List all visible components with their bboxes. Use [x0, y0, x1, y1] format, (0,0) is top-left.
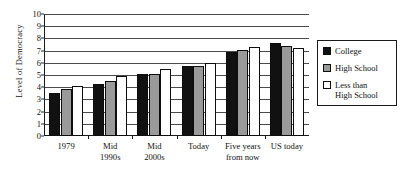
bar-group-bars — [44, 14, 88, 136]
x-tick-mark — [265, 135, 266, 139]
x-tick-mark — [221, 135, 222, 139]
bar-groups: 1979Mid1990sMid2000sTodayFive yearsfrom … — [44, 14, 309, 136]
chart-legend: CollegeHigh SchoolLess than High School — [317, 40, 397, 106]
x-tick-mark — [132, 135, 133, 139]
legend-item[interactable]: Less than High School — [323, 80, 392, 100]
legend-item[interactable]: High School — [323, 63, 392, 73]
bar[interactable] — [160, 69, 171, 136]
bar[interactable] — [137, 74, 148, 136]
bar-group: Today — [177, 14, 221, 136]
y-axis-title: Level of Democracy — [14, 6, 24, 116]
x-label-line-1: Mid — [147, 141, 161, 151]
x-tick-mark — [177, 135, 178, 139]
bar-group-bars — [88, 14, 132, 136]
x-label-line-1: Mid — [103, 141, 117, 151]
bar-chart-figure: Level of Democracy 012345678910 1979Mid1… — [0, 0, 405, 181]
legend-item-label: Less than High School — [335, 80, 378, 100]
bar-group: Mid1990s — [88, 14, 132, 136]
bar[interactable] — [193, 66, 204, 136]
bar-group: US today — [265, 14, 309, 136]
bar[interactable] — [149, 74, 160, 136]
bar[interactable] — [226, 52, 237, 136]
bar-group-bars — [265, 14, 309, 136]
x-label-line-1: US today — [271, 141, 303, 151]
bar[interactable] — [237, 50, 248, 136]
bar-group-bars — [177, 14, 221, 136]
bar[interactable] — [116, 76, 127, 136]
bar[interactable] — [61, 89, 72, 136]
black-square-swatch — [323, 47, 331, 55]
white-square-swatch — [323, 81, 331, 89]
x-label-line-1: 1979 — [58, 141, 75, 151]
gray-square-swatch — [323, 64, 331, 72]
bar[interactable] — [72, 86, 83, 136]
bar[interactable] — [49, 93, 60, 136]
bar-group: 1979 — [44, 14, 88, 136]
bar[interactable] — [249, 47, 260, 136]
bar-group: Five yearsfrom now — [221, 14, 265, 136]
y-tick-label: 10 — [33, 10, 42, 19]
x-label-line-2: from now — [210, 152, 276, 163]
x-label-line-2: 2000s — [121, 152, 187, 163]
bar-group-bars — [132, 14, 176, 136]
legend-item-label: College — [335, 46, 361, 56]
x-tick-mark — [88, 135, 89, 139]
bar-group-bars — [221, 14, 265, 136]
x-label-line-1: Today — [188, 141, 209, 151]
bar[interactable] — [93, 84, 104, 136]
bar[interactable] — [205, 63, 216, 136]
legend-item-label: High School — [335, 63, 378, 73]
bar[interactable] — [270, 43, 281, 136]
bar[interactable] — [281, 46, 292, 136]
bar[interactable] — [105, 81, 116, 136]
plot-area: 012345678910 1979Mid1990sMid2000sTodayFi… — [44, 14, 309, 136]
bar[interactable] — [293, 48, 304, 136]
bar[interactable] — [182, 66, 193, 136]
bar-group: Mid2000s — [132, 14, 176, 136]
x-axis-category-label: US today — [254, 141, 320, 152]
legend-item[interactable]: College — [323, 46, 392, 56]
